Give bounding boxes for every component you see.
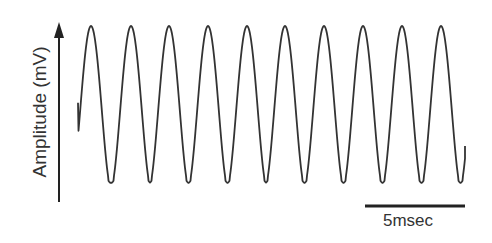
y-axis-arrow-icon (54, 22, 64, 38)
waveform-trace (78, 26, 465, 183)
y-axis-label: Amplitude (mV) (29, 47, 51, 178)
chart-svg (0, 0, 492, 243)
scale-bar-label: 5msec (383, 211, 433, 231)
chart-figure: Amplitude (mV) 5msec (0, 0, 492, 243)
